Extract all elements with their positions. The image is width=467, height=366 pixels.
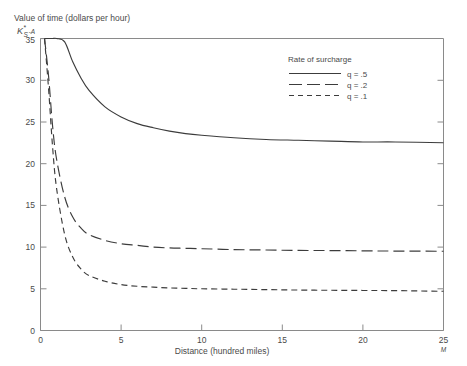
y-tick-marks	[41, 39, 47, 331]
y-tick-labels: 0 5 10 15 20 25 30 35	[26, 35, 36, 336]
legend: Rate of surcharge q = .5 q = .2 q = .1	[288, 55, 368, 101]
x-tick-label-0: 0	[38, 335, 43, 345]
curve-q-0-2	[45, 39, 444, 252]
x-tick-label-15: 15	[278, 335, 288, 345]
curve-q-0-1	[45, 39, 444, 292]
x-tick-label-10: 10	[197, 335, 207, 345]
y-tick-label-10: 10	[26, 242, 36, 252]
legend-label-q-0-5: q = .5	[347, 70, 368, 79]
y-tick-label-5: 5	[30, 284, 35, 294]
y-axis-symbol-superscript: *	[24, 24, 27, 31]
y-tick-label-20: 20	[26, 159, 36, 169]
chart-figure: Value of time (dollars per hour) K * S -…	[0, 0, 467, 366]
y-tick-marks-right	[438, 80, 444, 288]
legend-label-q-0-1: q = .1	[347, 92, 368, 101]
y-tick-label-35: 35	[26, 35, 36, 45]
x-axis-title: Distance (hundred miles)	[175, 346, 270, 356]
chart-svg: Value of time (dollars per hour) K * S -…	[0, 0, 467, 366]
y-axis-title: Value of time (dollars per hour)	[14, 13, 130, 23]
x-axis-end-marker: M	[441, 346, 447, 353]
x-tick-label-5: 5	[119, 335, 124, 345]
x-tick-labels: 0 5 10 15 20 25	[38, 335, 448, 345]
y-tick-label-25: 25	[26, 117, 36, 127]
x-tick-label-25: 25	[439, 335, 449, 345]
y-tick-label-15: 15	[26, 200, 36, 210]
legend-title: Rate of surcharge	[288, 55, 352, 64]
x-tick-marks	[41, 325, 444, 331]
curve-q-0-5	[45, 38, 444, 143]
y-tick-label-0: 0	[30, 326, 35, 336]
plot-frame	[41, 39, 444, 331]
data-curves	[45, 38, 444, 291]
x-tick-label-20: 20	[358, 335, 368, 345]
legend-label-q-0-2: q = .2	[347, 81, 368, 90]
y-tick-label-30: 30	[26, 75, 36, 85]
